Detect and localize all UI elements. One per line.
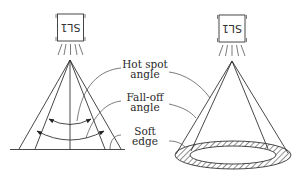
left-cone-side-view xyxy=(10,60,125,150)
left-light-label: SL1 xyxy=(60,21,80,34)
fall-off-label-line2: angle xyxy=(130,101,159,113)
right-spotlight-icon: SL1 xyxy=(218,15,247,56)
right-light-rays xyxy=(219,45,245,56)
left-spotlight-icon: SL1 xyxy=(56,14,85,55)
soft-edge-ring xyxy=(175,141,291,169)
right-light-label: SL1 xyxy=(222,22,242,35)
left-light-rays xyxy=(58,44,83,55)
spotlight-cone-diagram: SL1 Hot spot angle Fall-off a xyxy=(0,0,292,178)
soft-edge-label-line2: edge xyxy=(132,135,158,147)
right-cone-perspective xyxy=(175,61,291,169)
hot-spot-label-line2: angle xyxy=(130,68,159,80)
labels: Hot spot angle Fall-off angle Soft edge xyxy=(122,58,168,147)
fall-off-arc xyxy=(37,131,104,140)
